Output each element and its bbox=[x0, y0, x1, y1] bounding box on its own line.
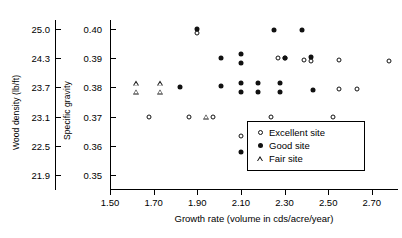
data-point-fair-site bbox=[157, 89, 163, 94]
growth-rate-tick bbox=[241, 189, 242, 195]
open-triangle-icon bbox=[255, 156, 265, 161]
wood-density-tick-label: 23.7 bbox=[18, 82, 50, 93]
data-point-fair-site bbox=[133, 81, 139, 86]
wood-density-tick-label: 24.3 bbox=[18, 53, 50, 64]
data-point-good-site bbox=[238, 149, 243, 154]
data-point-good-site bbox=[238, 89, 243, 94]
wood-density-tick bbox=[55, 58, 61, 59]
growth-rate-tick bbox=[285, 189, 286, 195]
data-point-good-site bbox=[300, 28, 305, 33]
specific-gravity-tick bbox=[110, 146, 116, 147]
wood-density-tick-label: 22.5 bbox=[18, 141, 50, 152]
data-point-good-site bbox=[256, 81, 261, 86]
legend-label: Excellent site bbox=[269, 127, 325, 138]
data-point-excellent-site bbox=[147, 114, 152, 119]
data-point-good-site bbox=[278, 81, 283, 86]
growth-rate-tick-label: 1.90 bbox=[188, 197, 207, 208]
growth-rate-tick bbox=[197, 189, 198, 195]
growth-rate-tick bbox=[110, 189, 111, 195]
data-point-good-site bbox=[177, 85, 182, 90]
data-point-good-site bbox=[219, 83, 224, 88]
specific-gravity-tick-label: 0.35 bbox=[70, 170, 102, 181]
growth-rate-tick-label: 2.10 bbox=[232, 197, 251, 208]
wood-density-tick bbox=[55, 146, 61, 147]
data-point-fair-site bbox=[133, 89, 139, 94]
growth-rate-tick-label: 1.70 bbox=[144, 197, 163, 208]
data-point-excellent-site bbox=[269, 114, 274, 119]
legend: Excellent site Good site Fair site bbox=[247, 121, 365, 171]
data-point-excellent-site bbox=[302, 57, 307, 62]
growth-rate-tick bbox=[328, 189, 329, 195]
data-point-excellent-site bbox=[238, 133, 243, 138]
data-point-excellent-site bbox=[337, 86, 342, 91]
data-point-excellent-site bbox=[387, 59, 392, 64]
wood-density-axis-title: Wood density (lb/ft) bbox=[11, 75, 21, 150]
wood-density-tick bbox=[55, 175, 61, 176]
data-point-good-site bbox=[310, 88, 315, 93]
data-point-good-site bbox=[282, 56, 287, 61]
specific-gravity-axis-line bbox=[110, 20, 111, 190]
specific-gravity-tick-label: 0.39 bbox=[70, 53, 102, 64]
specific-gravity-tick-label: 0.36 bbox=[70, 141, 102, 152]
data-point-excellent-site bbox=[330, 114, 335, 119]
data-point-good-site bbox=[195, 26, 200, 31]
data-point-good-site bbox=[238, 51, 243, 56]
scatter-plot-figure: 21.922.523.123.724.325.0 Wood density (l… bbox=[0, 0, 402, 238]
growth-rate-axis-title: Growth rate (volume in cds/acre/year) bbox=[110, 213, 398, 224]
legend-label: Good site bbox=[269, 140, 310, 151]
data-point-good-site bbox=[219, 56, 224, 61]
data-point-fair-site bbox=[157, 81, 163, 86]
data-point-excellent-site bbox=[195, 31, 200, 36]
data-point-good-site bbox=[256, 89, 261, 94]
specific-gravity-tick bbox=[110, 58, 116, 59]
wood-density-tick bbox=[55, 87, 61, 88]
growth-rate-tick bbox=[154, 189, 155, 195]
open-circle-icon bbox=[255, 130, 265, 135]
data-point-excellent-site bbox=[186, 114, 191, 119]
specific-gravity-tick-label: 0.38 bbox=[70, 82, 102, 93]
growth-rate-tick-label: 2.30 bbox=[275, 197, 294, 208]
specific-gravity-axis-title: Specific gravity bbox=[62, 81, 72, 140]
specific-gravity-tick bbox=[110, 87, 116, 88]
growth-rate-tick-label: 2.70 bbox=[363, 197, 382, 208]
specific-gravity-tick bbox=[110, 29, 116, 30]
data-point-good-site bbox=[238, 81, 243, 86]
data-point-excellent-site bbox=[354, 86, 359, 91]
data-point-good-site bbox=[278, 89, 283, 94]
growth-rate-tick bbox=[372, 189, 373, 195]
data-point-excellent-site bbox=[210, 114, 215, 119]
growth-rate-tick-label: 2.50 bbox=[319, 197, 338, 208]
data-point-good-site bbox=[238, 60, 243, 65]
data-point-fair-site bbox=[203, 114, 209, 119]
specific-gravity-tick bbox=[110, 117, 116, 118]
specific-gravity-tick-label: 0.37 bbox=[70, 111, 102, 122]
data-point-good-site bbox=[271, 28, 276, 33]
legend-label: Fair site bbox=[269, 153, 303, 164]
specific-gravity-tick bbox=[110, 175, 116, 176]
legend-item-good-site: Good site bbox=[255, 139, 358, 152]
data-point-excellent-site bbox=[337, 57, 342, 62]
data-point-excellent-site bbox=[308, 59, 313, 64]
specific-gravity-tick-label: 0.40 bbox=[70, 23, 102, 34]
legend-item-fair-site: Fair site bbox=[255, 152, 358, 165]
growth-rate-tick-label: 1.50 bbox=[101, 197, 120, 208]
wood-density-tick-label: 25.0 bbox=[18, 23, 50, 34]
data-point-good-site bbox=[308, 54, 313, 59]
data-point-excellent-site bbox=[276, 56, 281, 61]
wood-density-tick bbox=[55, 117, 61, 118]
wood-density-tick-label: 23.1 bbox=[18, 111, 50, 122]
wood-density-axis-line bbox=[55, 20, 56, 190]
legend-item-excellent-site: Excellent site bbox=[255, 126, 358, 139]
wood-density-tick bbox=[55, 29, 61, 30]
wood-density-tick-label: 21.9 bbox=[18, 170, 50, 181]
filled-circle-icon bbox=[255, 143, 265, 148]
